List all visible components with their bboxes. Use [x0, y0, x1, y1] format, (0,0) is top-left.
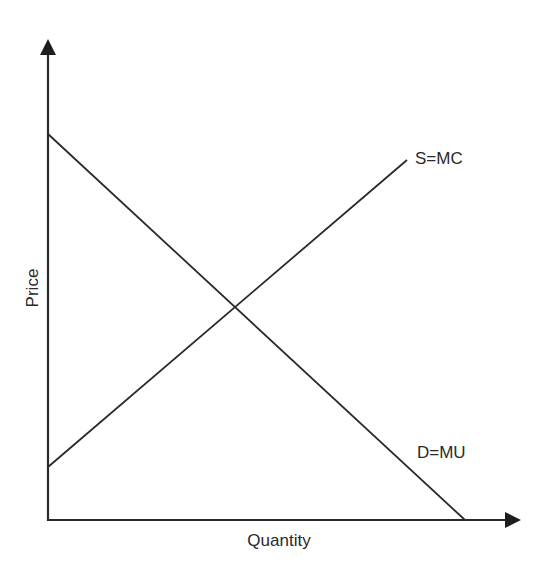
x-axis-label: Quantity [247, 531, 311, 550]
supply-demand-diagram: S=MC D=MU Quantity Price [0, 0, 545, 583]
y-axis-label: Price [23, 269, 42, 308]
demand-label: D=MU [417, 443, 466, 462]
supply-curve [48, 160, 407, 467]
supply-label: S=MC [415, 149, 463, 168]
x-axis-arrow-icon [505, 512, 521, 528]
y-axis-arrow-icon [40, 39, 56, 55]
demand-curve [48, 134, 465, 520]
